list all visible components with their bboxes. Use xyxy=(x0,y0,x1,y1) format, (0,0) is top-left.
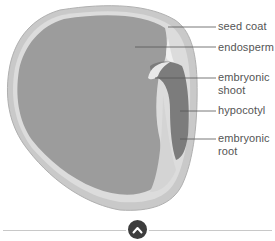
label-embryonic-root: embryonic root xyxy=(218,132,270,158)
collapse-button[interactable] xyxy=(126,218,149,241)
label-seed-coat: seed coat xyxy=(218,20,267,33)
seed-diagram: seed coat endosperm embryonic shoot hypo… xyxy=(0,0,275,220)
chevron-up-icon xyxy=(132,226,143,234)
label-embryonic-shoot: embryonic shoot xyxy=(218,71,270,97)
label-hypocotyl: hypocotyl xyxy=(218,104,265,117)
endosperm-shape xyxy=(17,15,166,194)
label-endosperm: endosperm xyxy=(218,41,274,54)
